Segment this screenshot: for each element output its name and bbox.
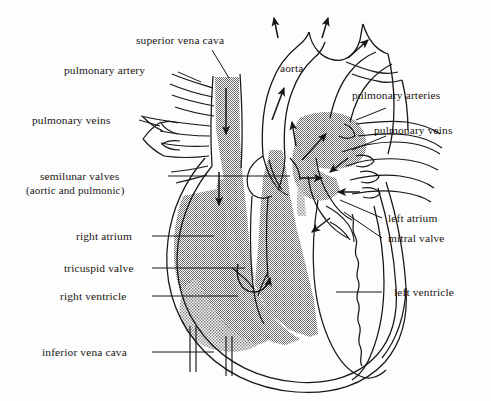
label-superior-vena-cava: superior vena cava bbox=[136, 34, 224, 46]
label-pulmonary-artery: pulmonary artery bbox=[64, 64, 145, 76]
label-mitral-valve: mitral valve bbox=[388, 232, 445, 244]
label-semilunar-valves-detail: (aortic and pulmonic) bbox=[26, 184, 125, 197]
label-tricuspid-valve: tricuspid valve bbox=[64, 262, 134, 274]
label-pulmonary-veins-right: pulmonary veins bbox=[374, 124, 453, 136]
label-left-atrium: left atrium bbox=[388, 212, 437, 224]
label-left-ventricle: left ventricle bbox=[394, 286, 454, 298]
label-semilunar-valves: semilunar valves bbox=[40, 170, 120, 182]
heart-anatomy-figure: superior vena cava pulmonary artery pulm… bbox=[0, 0, 491, 401]
label-pulmonary-veins-left: pulmonary veins bbox=[32, 114, 111, 126]
label-pulmonary-arteries-right: pulmonary arteries bbox=[352, 89, 441, 101]
label-aorta: aorta bbox=[280, 62, 304, 74]
heart-diagram-svg: superior vena cava pulmonary artery pulm… bbox=[0, 0, 491, 401]
label-right-atrium: right atrium bbox=[76, 230, 132, 242]
label-inferior-vena-cava: inferior vena cava bbox=[42, 346, 127, 358]
label-right-ventricle: right ventricle bbox=[60, 290, 126, 302]
